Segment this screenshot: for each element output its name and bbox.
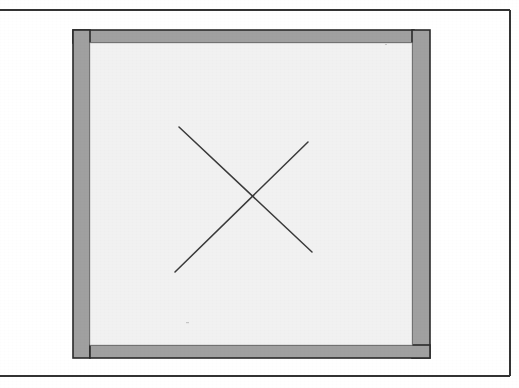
frame-member-bottom-rail: [90, 345, 430, 358]
figure-canvas: [0, 0, 519, 388]
frame-member-left-stile: [73, 30, 90, 358]
frame-member-right-stile: [412, 30, 430, 358]
frame-member-top-rail: [73, 30, 414, 43]
scan-speckle: [186, 322, 189, 323]
scan-speckle: [385, 44, 387, 45]
technical-drawing-svg: [0, 0, 519, 388]
